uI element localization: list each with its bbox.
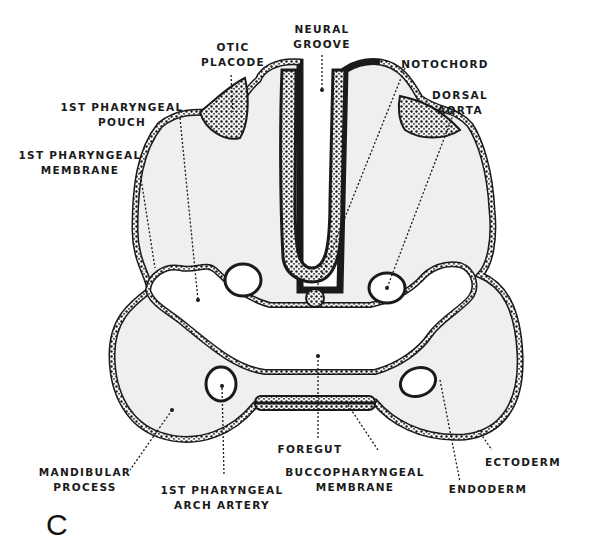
label-otic-placode: OTIC PLACODE [178, 40, 288, 70]
label-pharyngeal-membrane: 1ST PHARYNGEAL MEMBRANE [6, 148, 154, 178]
label-neural-groove: NEURAL GROOVE [280, 22, 364, 52]
arch-artery-left [206, 367, 236, 401]
label-endoderm: ENDODERM [440, 482, 536, 497]
label-foregut: FOREGUT [265, 442, 355, 457]
label-pharyngeal-pouch: 1ST PHARYNGEAL POUCH [48, 100, 196, 130]
label-notochord: NOTOCHORD [395, 57, 495, 72]
label-buccopharyngeal-membrane: BUCCOPHARYNGEAL MEMBRANE [275, 465, 435, 495]
label-mandibular-process: MANDIBULAR PROCESS [30, 465, 140, 495]
label-dorsal-aorta: DORSAL AORTA [425, 88, 495, 118]
neural-tube [281, 70, 345, 282]
label-ectoderm: ECTODERM [478, 455, 568, 470]
panel-letter: C [46, 508, 68, 542]
dorsal-aorta-left [225, 264, 261, 296]
label-arch-artery: 1ST PHARYNGEAL ARCH ARTERY [148, 483, 296, 513]
